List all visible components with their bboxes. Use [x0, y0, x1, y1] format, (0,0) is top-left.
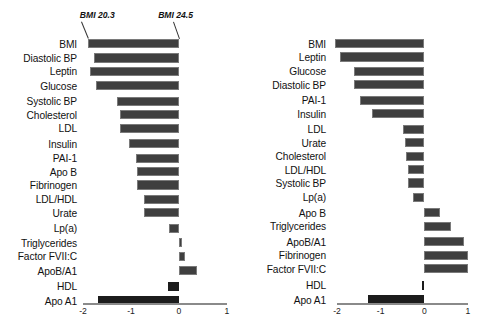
bar-category-label: Factor FVII:C — [267, 265, 326, 275]
bar — [340, 52, 424, 61]
bar — [96, 81, 179, 90]
bar-category-label: Systolic BP — [27, 97, 77, 107]
bar-category-label: LDL/HDL — [285, 166, 326, 176]
bar — [144, 208, 179, 217]
bar — [179, 266, 197, 275]
bar — [120, 110, 179, 119]
bar-category-label: Apo A1 — [294, 296, 326, 306]
bar-category-label: Lp(a) — [54, 224, 77, 234]
x-tick-label: 0 — [422, 306, 427, 316]
bar — [413, 193, 424, 202]
bar — [424, 237, 463, 246]
bar-category-label: Leptin — [299, 53, 326, 63]
bar — [403, 125, 425, 134]
bar — [179, 238, 182, 247]
bar-category-label: LDL — [59, 124, 77, 134]
chart-panel-right: BMILeptinGlucoseDiastolic BPPAI-1Insulin… — [240, 0, 479, 327]
bar-category-label: Triglycerides — [21, 239, 77, 249]
x-axis-line — [83, 303, 227, 305]
bar-category-label: Systolic BP — [276, 179, 326, 189]
bar — [88, 39, 179, 48]
bar — [424, 222, 450, 231]
bar — [408, 178, 425, 187]
bar — [424, 264, 468, 273]
bar-category-label: BMI — [59, 40, 77, 50]
x-tick-label: 0 — [177, 306, 182, 316]
x-tick-label: 1 — [466, 306, 471, 316]
bar — [408, 165, 425, 174]
bar-category-label: Factor FVII:C — [18, 252, 77, 262]
bar — [120, 124, 179, 133]
bar — [136, 154, 179, 163]
bar-category-label: Glucose — [40, 82, 77, 92]
annotation-label: BMI 24.5 — [158, 10, 193, 20]
bar-category-label: Fibrinogen — [30, 181, 77, 191]
bar-category-label: Triglycerides — [270, 222, 326, 232]
figure-container: BMIDiastolic BPLeptinGlucoseSystolic BPC… — [0, 0, 479, 327]
bar — [94, 53, 179, 62]
annotation-leader-line — [173, 22, 180, 39]
bar-category-label: Insulin — [297, 110, 326, 120]
bar-category-label: Leptin — [50, 67, 77, 77]
bar — [354, 67, 424, 76]
bar-category-label: Apo B — [299, 209, 326, 219]
bar — [144, 195, 179, 204]
bar — [137, 167, 179, 176]
bar — [335, 39, 425, 48]
bar — [354, 80, 424, 89]
bar — [168, 282, 179, 291]
bar-category-label: Apo A1 — [45, 297, 77, 307]
bar — [424, 208, 439, 217]
bar-category-label: ApoB/A1 — [286, 238, 326, 248]
annotation-leader-line — [81, 22, 89, 39]
bar — [90, 67, 179, 76]
bar-category-label: ApoB/A1 — [37, 267, 77, 277]
bar-category-label: Lp(a) — [303, 193, 326, 203]
bar-category-label: HDL — [57, 282, 77, 292]
bar — [129, 139, 179, 148]
x-tick-label: 1 — [225, 306, 230, 316]
x-tick-label: -2 — [79, 306, 87, 316]
bar-category-label: Diastolic BP — [23, 54, 77, 64]
bar-category-label: LDL/HDL — [36, 195, 77, 205]
bar-category-label: Apo B — [50, 168, 77, 178]
bar-category-label: Diastolic BP — [272, 81, 326, 91]
bar — [360, 96, 425, 105]
annotation-label: BMI 20.3 — [80, 10, 115, 20]
bar-category-label: Cholesterol — [276, 152, 326, 162]
x-tick-label: -2 — [333, 306, 341, 316]
bar-category-label: BMI — [308, 40, 326, 50]
bar — [372, 109, 424, 118]
bar-category-label: Fibrinogen — [279, 251, 326, 261]
bar — [137, 180, 179, 189]
bar-category-label: LDL — [308, 125, 326, 135]
x-tick-label: -1 — [377, 306, 385, 316]
bar — [424, 251, 468, 260]
bar-category-label: Urate — [302, 139, 326, 149]
chart-panel-left: BMIDiastolic BPLeptinGlucoseSystolic BPC… — [0, 0, 240, 327]
bar — [405, 138, 425, 147]
x-axis-line — [337, 303, 468, 305]
bar — [179, 252, 185, 261]
bar-category-label: Cholesterol — [27, 111, 77, 121]
bar — [117, 97, 179, 106]
bar-category-label: Insulin — [48, 140, 77, 150]
bar-category-label: HDL — [306, 281, 326, 291]
bar-category-label: PAI-1 — [53, 154, 77, 164]
bar — [422, 281, 424, 290]
bar-category-label: Urate — [53, 209, 77, 219]
x-tick-label: -1 — [127, 306, 135, 316]
bar — [406, 152, 424, 161]
bar — [169, 224, 179, 233]
bar-category-label: PAI-1 — [302, 96, 326, 106]
bar-category-label: Glucose — [289, 67, 326, 77]
